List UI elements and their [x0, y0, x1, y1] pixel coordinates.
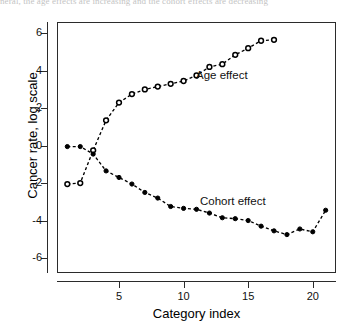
data-point-cohort-effect [181, 206, 185, 210]
x-tick [248, 282, 249, 288]
series-label-cohort-effect: Cohort effect [200, 195, 266, 207]
x-axis-title: Category index [57, 306, 336, 321]
data-point-cohort-effect [220, 216, 224, 220]
y-tick-label: 2 [14, 101, 42, 113]
data-point-cohort-effect [233, 217, 237, 221]
data-point-age-effect [155, 84, 160, 89]
data-point-age-effect [65, 182, 70, 187]
data-point-age-effect [272, 37, 277, 42]
data-point-cohort-effect [91, 152, 95, 156]
y-tick-label: 4 [14, 64, 42, 76]
x-tick [184, 282, 185, 288]
x-tick-label: 15 [233, 290, 263, 302]
plot-series-svg [57, 22, 336, 273]
data-point-cohort-effect [104, 169, 108, 173]
data-point-cohort-effect [246, 218, 250, 222]
data-point-age-effect [117, 100, 122, 105]
y-axis-line [47, 22, 48, 273]
data-point-cohort-effect [194, 207, 198, 211]
x-tick-label: 5 [104, 290, 134, 302]
data-point-age-effect [78, 181, 83, 186]
data-point-cohort-effect [324, 208, 328, 212]
series-label-age-effect: Age effect [196, 69, 248, 81]
data-point-cohort-effect [285, 233, 289, 237]
data-point-age-effect [168, 81, 173, 86]
x-tick-label: 10 [169, 290, 199, 302]
y-tick-label: 0 [14, 139, 42, 151]
plot-area [57, 22, 336, 273]
cropped-body-text: neral, the age effects are increasing an… [0, 0, 351, 8]
data-point-cohort-effect [272, 229, 276, 233]
y-tick-label: -2 [14, 176, 42, 188]
x-axis-line [57, 281, 336, 282]
series-line-age-effect [67, 40, 274, 184]
data-point-age-effect [220, 62, 225, 67]
figure-container: neral, the age effects are increasing an… [0, 0, 351, 328]
series-line-cohort-effect [67, 147, 325, 235]
data-point-cohort-effect [117, 175, 121, 179]
data-point-cohort-effect [298, 227, 302, 231]
data-point-cohort-effect [311, 230, 315, 234]
x-tick [313, 282, 314, 288]
data-point-cohort-effect [169, 204, 173, 208]
x-tick [119, 282, 120, 288]
data-point-age-effect [181, 79, 186, 84]
data-point-age-effect [246, 46, 251, 51]
data-point-cohort-effect [78, 144, 82, 148]
data-point-cohort-effect [207, 211, 211, 215]
y-tick-label: 6 [14, 26, 42, 38]
data-point-age-effect [104, 118, 109, 123]
data-point-age-effect [233, 52, 238, 57]
data-point-age-effect [130, 92, 135, 97]
data-point-cohort-effect [130, 182, 134, 186]
x-tick-label: 20 [298, 290, 328, 302]
data-point-age-effect [259, 38, 264, 43]
data-point-cohort-effect [143, 190, 147, 194]
data-point-cohort-effect [259, 224, 263, 228]
data-point-cohort-effect [156, 196, 160, 200]
y-tick-label: -4 [14, 214, 42, 226]
y-tick-label: -6 [14, 251, 42, 263]
data-point-age-effect [142, 87, 147, 92]
data-point-cohort-effect [65, 144, 69, 148]
